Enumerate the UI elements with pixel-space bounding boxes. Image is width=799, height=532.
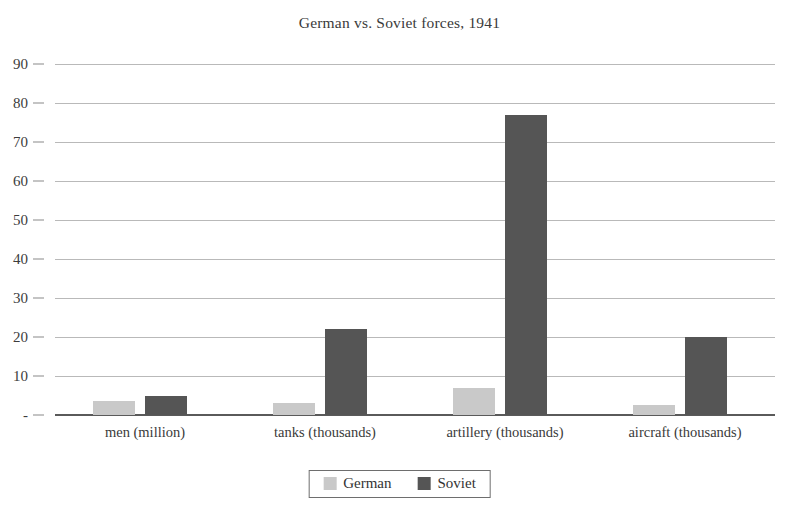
x-axis-label-artillery: artillery (thousands) bbox=[415, 424, 595, 441]
legend-label-german: German bbox=[343, 475, 391, 492]
bar-group bbox=[415, 64, 595, 415]
y-axis-tick-mark-50 bbox=[33, 220, 44, 221]
legend-item-german[interactable]: German bbox=[323, 475, 391, 492]
y-axis-tick-label-90: 90 bbox=[13, 56, 28, 73]
legend-swatch-soviet bbox=[417, 477, 430, 490]
y-axis-tick-mark-60 bbox=[33, 181, 44, 182]
y-axis-tick-label-10: 10 bbox=[13, 368, 28, 385]
bar-chart-figure: German vs. Soviet forces, 1941 908070605… bbox=[0, 0, 799, 532]
bar-group bbox=[55, 64, 235, 415]
y-axis-tick-label-30: 30 bbox=[13, 290, 28, 307]
y-axis-tick-label-0: - bbox=[23, 407, 28, 424]
y-axis-tick-label-50: 50 bbox=[13, 212, 28, 229]
y-axis-tick-mark-0 bbox=[33, 415, 44, 416]
y-axis-tick-mark-40 bbox=[33, 259, 44, 260]
y-axis-tick-label-20: 20 bbox=[13, 329, 28, 346]
bar-group bbox=[235, 64, 415, 415]
y-axis-tick-mark-70 bbox=[33, 142, 44, 143]
x-axis-label-aircraft: aircraft (thousands) bbox=[595, 424, 775, 441]
bar-german-artillery bbox=[453, 388, 495, 415]
chart-legend: GermanSoviet bbox=[308, 470, 491, 498]
bar-soviet-aircraft bbox=[685, 337, 727, 415]
chart-title: German vs. Soviet forces, 1941 bbox=[0, 14, 799, 32]
y-axis-tick-label-70: 70 bbox=[13, 134, 28, 151]
y-axis-tick-mark-90 bbox=[33, 64, 44, 65]
bar-soviet-tanks bbox=[325, 329, 367, 415]
bar-group bbox=[595, 64, 775, 415]
x-axis-label-tanks: tanks (thousands) bbox=[235, 424, 415, 441]
y-axis-tick-label-40: 40 bbox=[13, 251, 28, 268]
bar-german-tanks bbox=[273, 403, 315, 415]
y-axis-tick-label-80: 80 bbox=[13, 95, 28, 112]
bar-german-men bbox=[93, 401, 135, 415]
legend-label-soviet: Soviet bbox=[437, 475, 475, 492]
bar-soviet-artillery bbox=[505, 115, 547, 415]
y-axis-tick-mark-10 bbox=[33, 376, 44, 377]
bar-german-aircraft bbox=[633, 405, 675, 415]
bar-soviet-men bbox=[145, 396, 187, 416]
legend-swatch-german bbox=[323, 477, 336, 490]
y-axis-tick-mark-20 bbox=[33, 337, 44, 338]
y-axis-tick-mark-80 bbox=[33, 103, 44, 104]
y-axis-tick-label-60: 60 bbox=[13, 173, 28, 190]
x-axis-label-men: men (million) bbox=[55, 424, 235, 441]
plot-area bbox=[55, 64, 775, 415]
y-axis-tick-mark-30 bbox=[33, 298, 44, 299]
legend-item-soviet[interactable]: Soviet bbox=[417, 475, 475, 492]
x-axis-category-labels: men (million)tanks (thousands)artillery … bbox=[55, 424, 775, 450]
y-axis: 908070605040302010- bbox=[0, 64, 50, 415]
